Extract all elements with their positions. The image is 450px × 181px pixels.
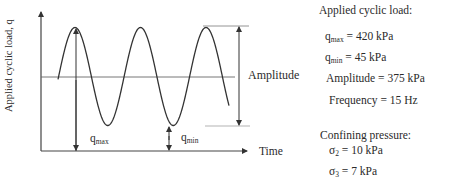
y-axis-label: Applied cyclic load, q bbox=[3, 19, 14, 112]
frequency-value: Frequency = 15 Hz bbox=[329, 94, 418, 106]
amplitude-value: Amplitude = 375 kPa bbox=[326, 72, 425, 84]
amplitude-label: Amplitude bbox=[248, 68, 299, 83]
qmin-text: = 45 kPa bbox=[342, 51, 386, 63]
qmax-value: qmax = 420 kPa bbox=[325, 30, 393, 44]
qmax-text: = 420 kPa bbox=[344, 30, 394, 42]
qmax-label-sub: max bbox=[96, 137, 109, 146]
time-label: Time bbox=[259, 145, 283, 157]
qmin-value: qmin = 45 kPa bbox=[325, 51, 386, 65]
cyclic-load-wave bbox=[58, 28, 229, 126]
qmin-label-sub: min bbox=[187, 136, 199, 145]
sigma2-text: = 10 kPa bbox=[339, 144, 383, 156]
sigma3-text: = 7 kPa bbox=[339, 165, 377, 177]
sigma2-value: σ2 = 10 kPa bbox=[329, 144, 383, 158]
confining-heading: Confining pressure: bbox=[320, 129, 411, 141]
qmax-subscript: max bbox=[331, 35, 344, 44]
sigma3-value: σ3 = 7 kPa bbox=[329, 165, 377, 179]
cyclic-load-diagram bbox=[0, 0, 300, 181]
load-heading: Applied cyclic load: bbox=[319, 4, 412, 16]
qmax-label: qmax bbox=[90, 132, 109, 146]
qmin-label: qmin bbox=[181, 131, 198, 145]
qmin-subscript: min bbox=[331, 56, 343, 65]
